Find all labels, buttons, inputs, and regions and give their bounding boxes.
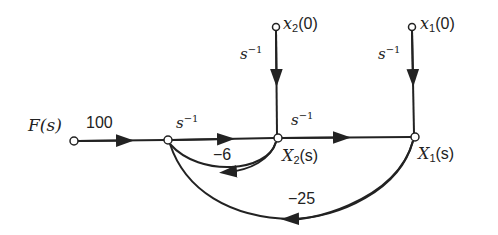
gain-label-100: 100 xyxy=(86,114,113,132)
node-label-x10: x1(0) xyxy=(420,14,455,34)
node-n1 xyxy=(164,136,172,144)
node-label-f: F(s) xyxy=(28,115,62,135)
gain-label-x2-x1: s−1 xyxy=(291,110,313,129)
gain-label-n1-x2: s−1 xyxy=(176,113,198,132)
node-f xyxy=(70,137,78,145)
node-label-x20: x2(0) xyxy=(283,14,318,34)
node-x1 xyxy=(411,133,419,141)
gain-label-minus6: −6 xyxy=(213,146,231,164)
gain-label-x10-x1: s−1 xyxy=(378,44,400,63)
node-label-x2: X2(s) xyxy=(282,146,318,166)
gain-label-x20-x2: s−1 xyxy=(240,44,262,63)
gain-label-minus25: −25 xyxy=(288,190,315,208)
node-x2 xyxy=(274,134,282,142)
signal-flow-graph xyxy=(0,0,498,235)
node-label-x1: X1(s) xyxy=(418,144,454,164)
node-x20 xyxy=(273,24,280,31)
node-x10 xyxy=(409,24,416,31)
